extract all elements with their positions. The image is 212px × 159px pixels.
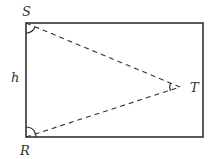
rectangle (26, 23, 203, 137)
diagram-canvas: S R T h (0, 0, 212, 159)
label-s: S (22, 4, 31, 19)
angle-arc-t (170, 83, 171, 91)
geometry-figure: S R T h (0, 0, 212, 159)
angle-arc-r (36, 134, 37, 137)
label-r: R (19, 143, 30, 158)
angle-arc-s (26, 27, 35, 33)
dashed-line-r-to-t (26, 87, 180, 137)
label-t: T (190, 80, 200, 95)
dashed-line-s-to-t (26, 23, 180, 87)
label-h: h (11, 70, 19, 85)
angle-arc-r-full (26, 127, 36, 134)
